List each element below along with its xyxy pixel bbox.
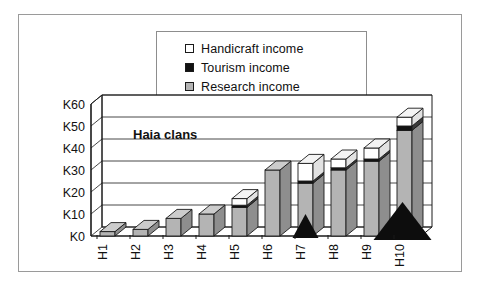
x-axis-tick-label: H2: [129, 244, 143, 260]
x-axis-tick-label: H1: [96, 244, 110, 260]
y-axis-tick-label: K40: [63, 142, 85, 156]
x-axis-tick-label: H4: [195, 244, 209, 260]
bar-segment: [232, 207, 247, 236]
axis-tick-connector: [91, 161, 102, 170]
y-axis-tick-label: K30: [63, 164, 85, 178]
bar-column: [265, 161, 291, 236]
y-axis-tick-label: K10: [63, 208, 85, 222]
bar-segment: [133, 229, 148, 236]
axis-tick-connector: [91, 117, 102, 126]
x-axis-tick-label: H5: [228, 244, 242, 260]
bar-column: [232, 190, 258, 236]
bar-segment: [397, 117, 412, 126]
bar-chart-svg: K0K10K20K30K40K50K60Haia clansH1H2H3H4H5…: [19, 15, 463, 273]
axis-tick-connector: [91, 205, 102, 214]
bar-column: [364, 139, 390, 236]
chart-annotation: Haia clans: [133, 127, 197, 142]
bar-segment: [331, 159, 346, 168]
axis-tick-connector: [91, 139, 102, 148]
x-axis-tick-label: H10: [393, 244, 407, 267]
x-axis-ticks: H1H2H3H4H5H6H7H8H9H10: [96, 235, 407, 267]
wall-top-edge: [91, 95, 102, 104]
x-axis-tick-label: H6: [261, 244, 275, 260]
chart-frame: Handicraft income Tourism income Researc…: [18, 14, 462, 272]
bar-segment: [364, 148, 379, 159]
bar-segment: [265, 170, 280, 236]
bar-segment: [232, 199, 247, 206]
bar-segment: [364, 161, 379, 236]
bar-segment-side: [280, 161, 291, 236]
bar-segment: [166, 218, 181, 236]
x-axis-tick-label: H8: [327, 244, 341, 260]
axis-tick-connector: [91, 183, 102, 192]
bar-segment-side: [313, 174, 324, 236]
y-axis-tick-label: K20: [63, 186, 85, 200]
bar-column: [331, 150, 357, 236]
bar-segment: [331, 170, 346, 236]
bar-segment-side: [346, 161, 357, 236]
bar-segment: [199, 214, 214, 236]
bar-segment: [298, 163, 313, 181]
x-axis-tick-label: H7: [294, 244, 308, 260]
x-axis-tick-label: H3: [162, 244, 176, 260]
chart-plot-area: K0K10K20K30K40K50K60Haia clansH1H2H3H4H5…: [19, 15, 463, 273]
x-axis-tick-label: H9: [360, 244, 374, 260]
y-axis-tick-label: K60: [63, 98, 85, 112]
bar-segment: [397, 126, 412, 130]
bar-segment: [100, 232, 115, 236]
y-axis-tick-label: K50: [63, 120, 85, 134]
y-axis-tick-label: K0: [70, 230, 85, 244]
